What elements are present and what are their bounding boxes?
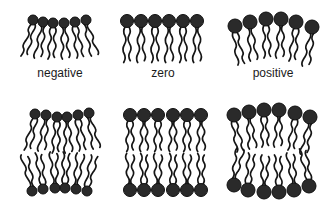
lipid-tail: [188, 155, 192, 184]
lipid-tail: [184, 27, 187, 61]
lipid-head: [289, 15, 303, 29]
lipid-head: [152, 184, 165, 197]
lipid-head: [195, 109, 208, 122]
lipid-head: [167, 184, 180, 197]
lipid-tail: [64, 121, 67, 153]
lipid-molecule: [272, 103, 286, 147]
lipid-tail: [232, 32, 239, 65]
lipid-tail: [52, 121, 56, 153]
lipid-tail: [55, 154, 58, 184]
lipid-head: [163, 15, 176, 28]
lipid-molecule: [81, 15, 99, 56]
lipid-molecule: [149, 15, 162, 63]
lipid-head: [124, 109, 137, 122]
lipid-molecule: [241, 153, 255, 197]
lipid-head: [177, 15, 190, 28]
lipid-tail: [126, 154, 130, 185]
lipid-head: [71, 184, 81, 194]
lipid-tail: [248, 28, 251, 61]
lipid-tail: [53, 27, 56, 57]
lipid-molecule: [167, 154, 180, 197]
monolayer-zero: [121, 15, 204, 63]
lipid-tail: [280, 157, 283, 186]
lipid-molecule: [243, 15, 258, 61]
lipid-tail: [170, 27, 174, 61]
monolayer-positive: [228, 12, 319, 66]
label-negative: negative: [20, 65, 100, 81]
lipid-molecule: [299, 149, 316, 193]
lipid-molecule: [73, 110, 86, 151]
lipid-molecule: [163, 15, 176, 63]
lipid-molecule: [289, 15, 303, 61]
lipid-tail: [250, 155, 255, 184]
lipid-molecule: [24, 109, 40, 150]
lipid-tail: [174, 121, 178, 150]
lipid-molecule: [84, 108, 100, 149]
lipid-tail: [293, 119, 297, 148]
lipid-tail: [165, 27, 169, 63]
lipid-head: [81, 15, 91, 25]
lipid-tail: [62, 152, 65, 184]
lipid-head: [84, 108, 94, 118]
lipid-molecule: [35, 153, 48, 194]
lipid-head: [191, 15, 204, 28]
lipid-molecule: [62, 112, 73, 153]
lipid-molecule: [82, 155, 98, 196]
lipid-head: [274, 12, 288, 26]
lipid-molecule: [195, 154, 208, 197]
lipid-molecule: [286, 153, 301, 197]
lipid-molecule: [124, 154, 137, 197]
lipid-tail: [68, 121, 73, 151]
lipid-molecule: [259, 12, 273, 58]
lipid-head: [138, 109, 151, 122]
lipid-head: [41, 110, 51, 120]
bilayer-negative: [21, 108, 101, 196]
lipid-tail: [140, 121, 144, 152]
lipid-head: [227, 178, 241, 192]
lipid-tail: [65, 27, 70, 57]
lipid-tail: [151, 27, 154, 63]
lipid-tail: [77, 155, 85, 185]
lipid-tail: [156, 27, 159, 61]
lipid-tail: [41, 155, 46, 185]
lipid-molecule: [288, 106, 302, 150]
lipid-head: [257, 185, 271, 199]
lipid-tail: [24, 118, 33, 150]
lipid-tail: [193, 27, 197, 63]
lipid-head: [228, 19, 242, 33]
lipid-molecule: [138, 154, 151, 197]
lipid-molecule: [21, 155, 37, 196]
lipid-head: [38, 17, 48, 27]
lipid-head: [50, 183, 60, 193]
lipid-tail: [128, 27, 131, 61]
bilayer-positive: [227, 103, 317, 199]
lipid-head: [305, 20, 319, 34]
lipid-head: [303, 110, 317, 124]
lipid-head: [59, 18, 69, 28]
lipid-head: [38, 184, 48, 194]
lipid-molecule: [167, 109, 180, 152]
lipid-tail: [247, 118, 250, 149]
lipid-tail: [263, 25, 266, 58]
lipid-tail: [279, 116, 282, 145]
lipid-head: [288, 106, 302, 120]
lipid-head: [70, 17, 80, 27]
lipid-tail: [274, 155, 277, 186]
lipid-tail: [245, 153, 249, 184]
lipid-tail: [202, 155, 205, 184]
lipid-molecule: [135, 15, 148, 63]
lipid-head: [227, 108, 241, 122]
lipid-tail: [154, 154, 158, 185]
lipid-molecule: [302, 20, 319, 66]
lipid-tail: [179, 27, 182, 63]
lipid-molecule: [138, 109, 151, 152]
bilayer-zero: [124, 109, 208, 197]
lipid-tail: [159, 121, 162, 150]
lipid-tail: [126, 121, 129, 152]
lipid-tail: [21, 24, 31, 56]
lipid-tail: [34, 26, 42, 58]
lipid-molecule: [242, 105, 257, 149]
lipid-molecule: [227, 108, 244, 152]
lipid-tail: [197, 154, 200, 185]
lipid-head: [241, 183, 255, 197]
